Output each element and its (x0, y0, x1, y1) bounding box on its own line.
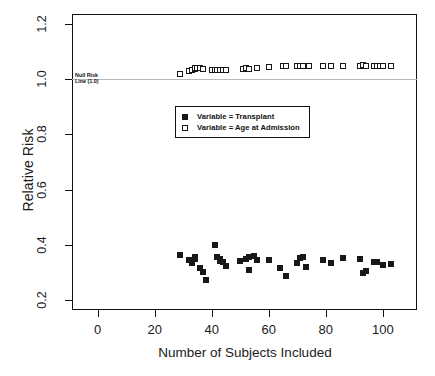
data-point-series-1 (254, 65, 260, 71)
legend-item-label: Variable = Age at Admission (197, 123, 300, 132)
data-point-series-1 (340, 63, 346, 69)
x-tick (326, 310, 327, 317)
x-tick (98, 310, 99, 317)
data-point-series-1 (363, 63, 369, 69)
legend-item-1: Variable = Age at Admission (182, 122, 300, 133)
y-tick (65, 134, 72, 135)
x-tick (383, 310, 384, 317)
data-point-series-0 (303, 264, 309, 270)
data-point-series-1 (328, 63, 334, 69)
filled-square-icon (182, 114, 188, 120)
y-axis-title: Relative Risk (20, 90, 36, 250)
open-square-icon (182, 125, 188, 131)
data-point-series-0 (357, 256, 363, 262)
null-risk-reference-line (72, 79, 417, 80)
data-point-series-0 (388, 261, 394, 267)
data-point-series-0 (328, 260, 334, 266)
data-point-series-0 (203, 277, 209, 283)
x-tick (212, 310, 213, 317)
y-tick (65, 190, 72, 191)
y-tick-label: 1.0 (35, 64, 49, 94)
data-point-series-0 (212, 242, 218, 248)
null-risk-line-label-line2: Line (1.0) (75, 78, 99, 84)
data-point-series-1 (388, 63, 394, 69)
data-point-series-1 (177, 71, 183, 77)
y-tick-label: 0.8 (35, 119, 49, 149)
data-point-series-0 (254, 257, 260, 263)
data-point-series-1 (306, 63, 312, 69)
data-point-series-0 (200, 269, 206, 275)
plot-area: 0.20.40.60.81.01.2020406080100Null RiskL… (72, 14, 417, 310)
null-risk-line-label: Null RiskLine (1.0) (75, 72, 99, 84)
y-tick (65, 300, 72, 301)
y-tick-label: 0.4 (35, 230, 49, 260)
y-tick-label: 0.2 (35, 285, 49, 315)
legend-item-label: Variable = Transplant (197, 112, 274, 121)
data-point-series-0 (266, 257, 272, 263)
data-point-series-0 (246, 267, 252, 273)
x-tick (155, 310, 156, 317)
legend: Variable = TransplantVariable = Age at A… (175, 106, 310, 138)
data-point-series-0 (363, 268, 369, 274)
relative-risk-scatter-figure: Relative Risk 0.20.40.60.81.01.202040608… (0, 0, 435, 376)
data-point-series-0 (223, 263, 229, 269)
legend-item-0: Variable = Transplant (182, 111, 300, 122)
y-tick (65, 245, 72, 246)
data-point-series-1 (223, 67, 229, 73)
x-tick-label: 60 (262, 322, 276, 337)
x-tick-label: 20 (147, 322, 161, 337)
data-point-series-1 (200, 66, 206, 72)
y-tick-label: 1.2 (35, 9, 49, 39)
data-point-series-0 (283, 273, 289, 279)
data-point-series-0 (340, 255, 346, 261)
x-tick-label: 80 (319, 322, 333, 337)
data-point-series-0 (380, 262, 386, 268)
y-tick (65, 79, 72, 80)
data-point-series-1 (283, 63, 289, 69)
y-tick-label: 0.6 (35, 175, 49, 205)
x-tick-label: 40 (204, 322, 218, 337)
data-point-series-1 (266, 64, 272, 70)
y-tick (65, 24, 72, 25)
x-axis-title: Number of Subjects Included (72, 345, 418, 360)
data-point-series-1 (320, 63, 326, 69)
data-point-series-0 (277, 265, 283, 271)
x-tick-label: 0 (94, 322, 101, 337)
data-point-series-0 (300, 254, 306, 260)
data-point-series-0 (320, 257, 326, 263)
x-tick (269, 310, 270, 317)
data-point-series-1 (380, 63, 386, 69)
x-tick-label: 100 (372, 322, 394, 337)
data-point-series-0 (177, 252, 183, 258)
data-point-series-1 (246, 66, 252, 72)
data-point-series-0 (192, 256, 198, 262)
